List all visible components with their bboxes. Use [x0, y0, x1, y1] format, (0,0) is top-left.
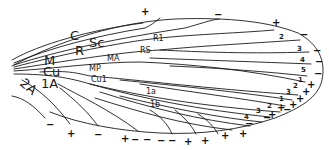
vein-anal-3a	[12, 96, 45, 118]
vein-mp-3	[140, 84, 285, 106]
sign-bottom-6: −	[168, 136, 176, 146]
sign-bottom-14: −	[46, 120, 54, 130]
label-r1: R1	[153, 35, 164, 43]
margin-number-rs-5: 5	[301, 67, 306, 74]
sign-apex-4: −	[314, 69, 322, 79]
margin-number-rs-4: 4	[300, 57, 305, 64]
sign-bottom-12: −	[94, 130, 102, 140]
vein-cu-1a	[90, 84, 270, 117]
label-1a: 1A	[41, 77, 58, 90]
sign-bottom-3: +	[239, 129, 247, 139]
label-radius: R	[75, 44, 84, 57]
sign-lower-right-6: +	[277, 103, 285, 113]
label-subcosta: Sc	[89, 36, 104, 49]
vein-cu-branch-a	[150, 110, 172, 134]
label-rs: RS	[140, 47, 151, 55]
margin-number-mp-2: 2	[293, 83, 298, 90]
label-1a-branch: 1a	[146, 88, 156, 96]
margin-number-rs-3: 3	[297, 46, 302, 53]
vein-rs-3	[160, 50, 309, 53]
margin-number-mp-1: 1	[298, 77, 303, 84]
sign-apex-1: −	[300, 30, 308, 40]
margin-number-cu-3: 3	[256, 108, 261, 115]
label-1b-branch: 1b	[150, 101, 160, 109]
label-ma: MA	[107, 55, 119, 63]
label-mp: MP	[89, 65, 101, 73]
sign-bottom-5: +	[201, 136, 209, 146]
sign-top-2: −	[214, 10, 222, 20]
label-costa: C	[70, 29, 79, 42]
margin-number-mp-3: 3	[286, 89, 291, 96]
sign-bottom-4: +	[221, 131, 229, 141]
sign-bottom-11: +	[121, 134, 129, 144]
sign-bottom-8: −	[143, 135, 151, 145]
label-cu1: Cu1	[91, 76, 107, 84]
sign-bottom-1: −	[263, 113, 271, 123]
sign-bottom-9: −	[131, 135, 139, 145]
sign-bottom-13: +	[67, 129, 75, 139]
sign-top-1: +	[141, 7, 149, 17]
vein-rs-4	[150, 58, 311, 64]
sign-bottom-10: +	[184, 137, 192, 147]
vein-anal-1a-b	[60, 88, 98, 126]
margin-number-rs-2: 2	[279, 34, 284, 41]
vein-media-mp	[40, 71, 298, 95]
sign-apex-2: −	[313, 46, 321, 56]
sign-bottom-7: −	[157, 136, 165, 146]
sign-apex-3: −	[315, 57, 323, 67]
vein-rs-5	[170, 66, 307, 76]
sign-top-3: +	[272, 18, 280, 28]
